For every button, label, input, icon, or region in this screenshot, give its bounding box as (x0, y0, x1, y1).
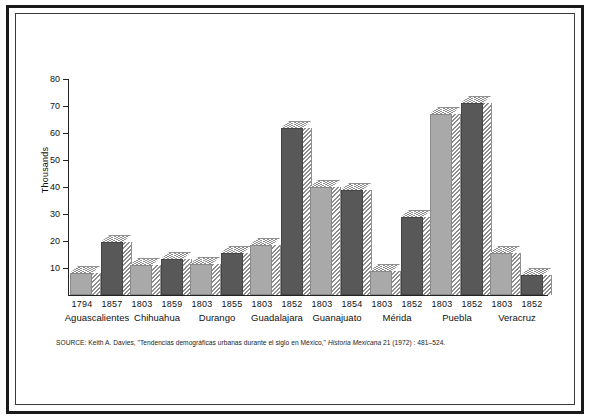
bar-face (101, 242, 123, 295)
bar-top-shadow (161, 252, 191, 259)
plot-area: 1020304050607080 (68, 70, 548, 295)
city-label: Durango (184, 312, 250, 323)
x-group-aguascalientes: 17941857Aguascalientes (64, 299, 130, 323)
year-label-early: 1794 (67, 299, 97, 309)
y-tick-label: 80 (38, 75, 60, 84)
bar-top-shadow (190, 257, 220, 264)
year-label-late: 1852 (457, 299, 487, 309)
year-label-late: 1859 (157, 299, 187, 309)
x-group-years: 18031859 (124, 299, 190, 309)
y-tick-label: 40 (38, 183, 60, 192)
bar-face (490, 253, 512, 295)
x-group-years: 18031852 (244, 299, 310, 309)
x-group-veracruz: 18031852Veracruz (484, 299, 550, 323)
bar-face (521, 275, 543, 295)
bar-face (281, 128, 303, 295)
bar-top-shadow (401, 210, 431, 217)
bar-face (310, 187, 332, 295)
year-label-early: 1803 (367, 299, 397, 309)
bar (430, 114, 452, 295)
bar (401, 217, 423, 295)
bar (130, 265, 152, 295)
city-label: Puebla (424, 312, 490, 323)
figure-page: Thousands 1020304050607080 17941857Aguas… (0, 0, 590, 420)
city-label: Veracruz (484, 312, 550, 323)
bar-side-shadow (332, 187, 341, 295)
bar-side-shadow (92, 273, 101, 295)
bar (521, 275, 543, 295)
year-label-early: 1803 (307, 299, 337, 309)
x-group-durango: 18031855Durango (184, 299, 250, 323)
bar-face (190, 264, 212, 295)
bar (490, 253, 512, 295)
bar-face (250, 245, 272, 295)
x-group-puebla: 18031852Puebla (424, 299, 490, 323)
bar-chart: Thousands 1020304050607080 17941857Aguas… (0, 0, 590, 420)
y-tick-label: 30 (38, 210, 60, 219)
city-label: Chihuahua (124, 312, 190, 323)
source-locator: 21 (1972) : 481–524. (383, 339, 445, 346)
bar-top-shadow (370, 264, 400, 271)
bar-top-shadow (281, 121, 311, 128)
bar-side-shadow (152, 265, 161, 295)
year-label-early: 1803 (187, 299, 217, 309)
y-tick-label: 70 (38, 102, 60, 111)
bar-side-shadow (392, 271, 401, 295)
x-axis-labels: 17941857Aguascalientes18031859Chihuahua1… (68, 299, 548, 339)
source-prefix: SOURCE: (56, 339, 86, 346)
source-journal: Historia Mexicana (328, 339, 381, 346)
bar-top-shadow (461, 96, 491, 103)
bar (161, 259, 183, 295)
bar-face (341, 190, 363, 295)
x-group-guadalajara: 18031852Guadalajara (244, 299, 310, 323)
bar-side-shadow (452, 114, 461, 295)
year-label-late: 1857 (97, 299, 127, 309)
bar-top-shadow (490, 246, 520, 253)
source-article: "Tendencias demográficas urbanas durante… (138, 339, 326, 346)
x-group-guanajuato: 18031854Guanajuato (304, 299, 370, 323)
y-tick-label: 50 (38, 156, 60, 165)
bar-top-shadow (221, 246, 251, 253)
bar (370, 271, 392, 295)
x-group-years: 18031852 (364, 299, 430, 309)
x-axis-line (68, 295, 548, 296)
bar-top-shadow (70, 266, 100, 273)
source-note: SOURCE: Keith A. Davies, "Tendencias dem… (56, 339, 556, 348)
year-label-late: 1854 (337, 299, 367, 309)
bar-top-shadow (130, 258, 160, 265)
year-label-late: 1852 (397, 299, 427, 309)
year-label-early: 1803 (247, 299, 277, 309)
x-group-years: 18031852 (424, 299, 490, 309)
x-group-years: 18031852 (484, 299, 550, 309)
bar-face (461, 103, 483, 295)
x-group-chihuahua: 18031859Chihuahua (124, 299, 190, 323)
city-label: Mérida (364, 312, 430, 323)
bar (101, 242, 123, 295)
bar-top-shadow (101, 235, 131, 242)
y-tick-label: 10 (38, 264, 60, 273)
year-label-late: 1855 (217, 299, 247, 309)
year-label-early: 1803 (127, 299, 157, 309)
bar-face (370, 271, 392, 295)
y-axis-title: Thousands (40, 130, 50, 210)
bar-top-shadow (341, 183, 371, 190)
bar-top-shadow (310, 180, 340, 187)
y-tick-label: 60 (38, 129, 60, 138)
bar (310, 187, 332, 295)
bar (281, 128, 303, 295)
bar (70, 273, 92, 295)
city-label: Guanajuato (304, 312, 370, 323)
year-label-early: 1803 (487, 299, 517, 309)
bar (190, 264, 212, 295)
bar-side-shadow (272, 245, 281, 295)
year-label-late: 1852 (517, 299, 547, 309)
bar-face (70, 273, 92, 295)
bar-side-shadow (543, 275, 552, 295)
x-group-years: 17941857 (64, 299, 130, 309)
bar-side-shadow (212, 264, 221, 295)
bar-top-shadow (250, 238, 280, 245)
bar-face (161, 259, 183, 295)
x-group-years: 18031855 (184, 299, 250, 309)
city-label: Aguascalientes (64, 312, 130, 323)
x-group-years: 18031854 (304, 299, 370, 309)
